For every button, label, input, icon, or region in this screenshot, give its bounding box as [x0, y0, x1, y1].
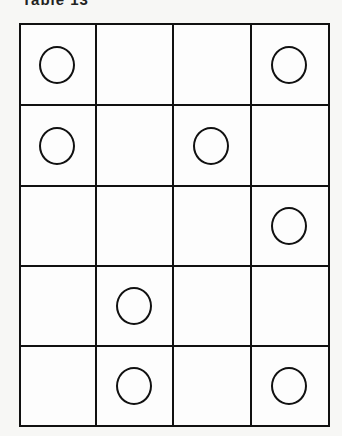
- circle-icon: [271, 46, 307, 84]
- grid-cell-r2-c4: [252, 106, 328, 187]
- grid-cell-r1-c2: [97, 25, 174, 106]
- grid-cell-r2-c1: [21, 106, 97, 187]
- circle-icon: [271, 367, 307, 405]
- grid-cell-r4-c1: [21, 267, 97, 347]
- grid-cell-r3-c3: [174, 187, 252, 267]
- grid-cell-r2-c2: [97, 106, 174, 187]
- grid-cell-r4-c4: [252, 267, 328, 347]
- grid-cell-r1-c3: [174, 25, 252, 106]
- grid-cell-r5-c2: [97, 347, 174, 425]
- circle-icon: [39, 46, 75, 84]
- circle-icon: [116, 367, 152, 405]
- grid-cell-r4-c3: [174, 267, 252, 347]
- circle-icon: [193, 127, 229, 165]
- circle-grid: [19, 23, 330, 427]
- grid-cell-r5-c1: [21, 347, 97, 425]
- grid-cell-r1-c1: [21, 25, 97, 106]
- grid-cell-r1-c4: [252, 25, 328, 106]
- grid-cell-r3-c4: [252, 187, 328, 267]
- table-title: Table 13: [22, 0, 89, 8]
- circle-icon: [271, 207, 307, 245]
- grid-cell-r4-c2: [97, 267, 174, 347]
- grid-cell-r5-c4: [252, 347, 328, 425]
- grid-cell-r5-c3: [174, 347, 252, 425]
- grid-cell-r2-c3: [174, 106, 252, 187]
- circle-icon: [39, 127, 75, 165]
- circle-icon: [116, 287, 152, 325]
- grid-cell-r3-c2: [97, 187, 174, 267]
- grid-cell-r3-c1: [21, 187, 97, 267]
